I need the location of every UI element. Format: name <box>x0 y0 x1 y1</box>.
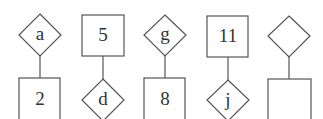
pattern-diagram: a 2 5 d g 8 11 j <box>0 0 323 119</box>
node-label: 5 <box>98 24 108 45</box>
diamond-node <box>268 16 310 57</box>
column-4: 11 j <box>207 16 249 119</box>
node-label: 8 <box>160 88 170 109</box>
column-2: 5 d <box>82 15 124 119</box>
node-label: a <box>36 23 45 44</box>
node-label: 2 <box>35 88 45 109</box>
node-label: j <box>224 89 230 110</box>
square-node <box>268 79 311 119</box>
column-3: g 8 <box>144 15 186 119</box>
node-label: d <box>98 88 108 109</box>
column-1: a 2 <box>19 14 61 119</box>
column-5 <box>268 16 311 119</box>
node-label: g <box>160 23 170 44</box>
node-label: 11 <box>219 25 237 46</box>
